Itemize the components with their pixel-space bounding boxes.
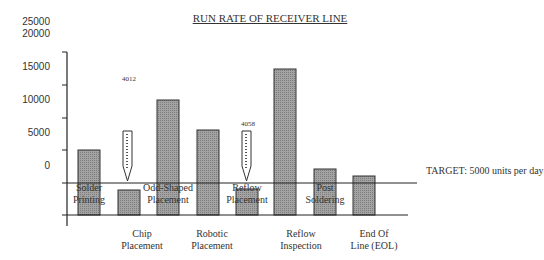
category-label: ChipPlacement: [102, 228, 182, 252]
label-line: Inspection: [261, 240, 341, 252]
label-line: Post: [285, 182, 365, 194]
category-label: ReflowInspection: [261, 228, 341, 252]
thermometer-icon: [242, 131, 251, 181]
thermometer-icon: [123, 131, 132, 181]
label-line: Placement: [128, 194, 208, 206]
category-label: RoboticPlacement: [172, 228, 252, 252]
label-line: Placement: [172, 240, 252, 252]
label-line: End Of: [334, 228, 414, 240]
label-line: Soldering: [285, 194, 365, 206]
label-line: Placement: [102, 240, 182, 252]
annotation-value: 4058: [241, 120, 255, 128]
label-line: Placement: [207, 194, 287, 206]
target-label: TARGET: 5000 units per day: [426, 165, 544, 176]
label-line: Solder: [49, 182, 129, 194]
annotation-value: 4012: [122, 75, 136, 83]
label-line: Reflow: [261, 228, 341, 240]
label-line: Chip: [102, 228, 182, 240]
label-line: Line (EOL): [334, 240, 414, 252]
label-line: Printing: [49, 194, 129, 206]
label-line: Reflow: [207, 182, 287, 194]
inner-category-label: Odd-ShapedPlacement: [128, 182, 208, 206]
label-line: Robotic: [172, 228, 252, 240]
inner-category-label: PostSoldering: [285, 182, 365, 206]
inner-category-label: SolderPrinting: [49, 182, 129, 206]
inner-category-label: ReflowPlacement: [207, 182, 287, 206]
category-label: End OfLine (EOL): [334, 228, 414, 252]
label-line: Odd-Shaped: [128, 182, 208, 194]
